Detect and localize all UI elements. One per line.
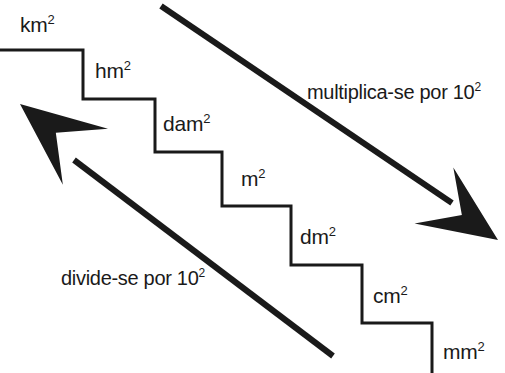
unit-label-hm2-text: hm xyxy=(95,59,124,82)
unit-label-km2-text: km xyxy=(20,13,48,36)
arrow-caption-multiply-text: multiplica-se por 10 xyxy=(307,81,474,103)
area-unit-conversion-diagram: km2 hm2 dam2 m2 dm2 cm2 mm2 multiplica-s… xyxy=(0,0,505,373)
arrow-caption-divide-text: divide-se por 10 xyxy=(61,267,199,289)
unit-label-dm2-exponent: 2 xyxy=(329,224,336,239)
arrow-multiply-shaft xyxy=(161,6,452,203)
arrow-caption-multiply-exponent: 2 xyxy=(474,80,481,94)
unit-label-dm2-text: dm xyxy=(300,225,329,248)
unit-label-cm2: cm2 xyxy=(373,285,408,306)
unit-label-km2: km2 xyxy=(20,14,55,35)
arrow-caption-divide: divide-se por 102 xyxy=(61,268,205,288)
unit-label-m2: m2 xyxy=(241,168,266,189)
unit-label-mm2-exponent: 2 xyxy=(478,339,485,354)
unit-label-dam2-text: dam xyxy=(163,112,203,135)
unit-label-dam2-exponent: 2 xyxy=(203,111,210,126)
arrow-multiply xyxy=(161,6,498,240)
arrow-divide xyxy=(20,104,333,356)
unit-label-mm2-text: mm xyxy=(443,340,478,363)
unit-label-mm2: mm2 xyxy=(443,341,485,362)
arrow-multiply-head-icon xyxy=(415,168,498,240)
unit-label-cm2-exponent: 2 xyxy=(401,283,408,298)
arrow-caption-multiply: multiplica-se por 102 xyxy=(307,82,481,102)
unit-label-m2-exponent: 2 xyxy=(258,166,265,181)
unit-label-cm2-text: cm xyxy=(373,284,401,307)
arrow-divide-shaft xyxy=(74,160,333,356)
unit-label-hm2: hm2 xyxy=(95,60,131,81)
unit-label-km2-exponent: 2 xyxy=(48,12,55,27)
unit-label-hm2-exponent: 2 xyxy=(124,58,131,73)
unit-label-m2-text: m xyxy=(241,167,258,190)
unit-label-dam2: dam2 xyxy=(163,113,211,134)
unit-label-dm2: dm2 xyxy=(300,226,336,247)
arrow-caption-divide-exponent: 2 xyxy=(199,266,206,280)
